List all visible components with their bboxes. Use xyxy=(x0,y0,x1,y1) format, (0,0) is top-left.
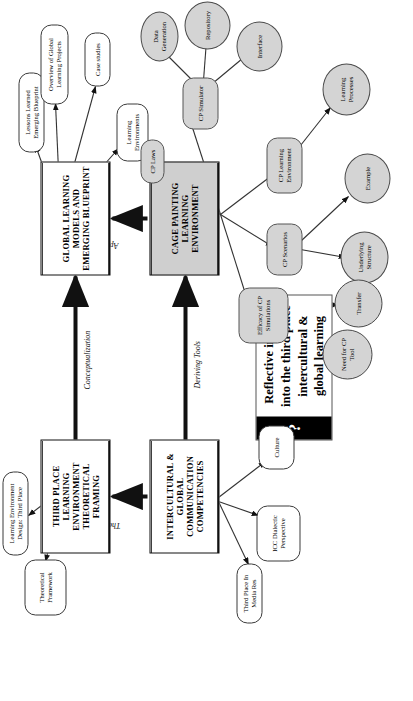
node-label: Lessons Learned Emerging Blueprint xyxy=(23,76,38,148)
node-need-for-cp-tool[interactable]: Need for CP Tool xyxy=(322,329,372,379)
process-box-label: GLOBAL LEARNING MODELS AND EMERGING BLUE… xyxy=(60,164,90,272)
node-label: Underlying Structure xyxy=(356,235,371,279)
node-underlying-structure[interactable]: Underlying Structure xyxy=(340,231,388,283)
edge-cple-cp-scenarios xyxy=(220,214,272,246)
node-label: Theoretical Framework xyxy=(37,563,52,611)
node-label: Case studies xyxy=(93,43,101,76)
process-box-global-learning-models-and-emerging-blueprint[interactable]: GLOBAL LEARNING MODELS AND EMERGING BLUE… xyxy=(40,161,110,275)
node-label: Learning Environment Design: Third Place xyxy=(7,475,22,551)
process-box-label: INTERCULTURAL & GLOBAL COMMUNICATION COM… xyxy=(164,442,205,550)
node-cp-laws[interactable]: CP Laws xyxy=(140,139,164,183)
node-label: Need for CP Tool xyxy=(339,333,354,375)
process-box-intercultural-global-communication-competencies[interactable]: INTERCULTURAL & GLOBAL COMMUNICATION COM… xyxy=(149,439,219,553)
node-overview-of-global-learning-projects[interactable]: Overview of Global Learning Projects xyxy=(40,24,68,104)
diagram-canvas: Theoretical Framing Conceptualization De… xyxy=(0,0,413,701)
node-label: CP Scenarios xyxy=(280,231,288,266)
node-icc-dialectic-perspective[interactable]: ICC Dialectic Perspective xyxy=(256,505,300,561)
process-box-third-place-learning-environment-theoretical-framing[interactable]: THIRD PLACE LEARNING ENVIRONMENT THEORET… xyxy=(40,439,110,553)
node-efficacy-of-cp-simulations[interactable]: Efficacy of CP Simulations xyxy=(238,287,288,343)
node-case-studies[interactable]: Case studies xyxy=(84,32,110,86)
node-third-place-in-media-res[interactable]: Third Place In Media Res xyxy=(236,563,262,623)
node-learning-environment-design-third-place[interactable]: Learning Environment Design: Third Place xyxy=(2,471,28,555)
node-label: CP Learning Environment xyxy=(276,141,291,189)
node-data-generation[interactable]: Data Generation xyxy=(140,11,178,61)
process-box-label: THIRD PLACE LEARNING ENVIRONMENT THEORET… xyxy=(50,442,101,550)
node-label: Learning Environments xyxy=(124,107,139,157)
node-label: Transfer xyxy=(354,292,362,314)
node-label: Interface xyxy=(255,34,263,57)
node-label: Culture xyxy=(272,437,280,457)
edge-icc-culture xyxy=(218,461,265,497)
node-label: Overview of Global Learning Projects xyxy=(46,28,61,100)
node-cp-simulator[interactable]: CP Simulator xyxy=(182,77,218,129)
node-culture[interactable]: Culture xyxy=(258,425,294,469)
node-transfer[interactable]: Transfer xyxy=(334,279,382,327)
node-repository[interactable]: Repository xyxy=(184,1,230,49)
edge-label-deriving-tools: Deriving Tools xyxy=(192,341,201,389)
edge-scenarios-example xyxy=(300,196,348,241)
node-label: Learning Processes xyxy=(338,67,353,111)
diagram-frame: Theoretical Framing Conceptualization De… xyxy=(0,0,413,701)
edge-label-conceptualization: Conceptualization xyxy=(82,330,91,389)
node-label: CP Simulator xyxy=(196,85,204,120)
node-label: Efficacy of CP Simulations xyxy=(255,291,270,339)
node-label: Repository xyxy=(203,11,211,40)
node-example[interactable]: Example xyxy=(344,153,390,203)
node-label: Third Place In Media Res xyxy=(241,567,256,619)
edge-scenarios-underlying-structure xyxy=(300,249,345,257)
node-label: Example xyxy=(363,166,371,189)
node-interface[interactable]: Interface xyxy=(236,21,282,71)
node-cp-learning-environment[interactable]: CP Learning Environment xyxy=(266,137,302,193)
node-theoretical-framework[interactable]: Theoretical Framework xyxy=(24,559,66,615)
edge-cple-learning-processes xyxy=(300,107,330,145)
node-label: ICC Dialectic Perspective xyxy=(270,509,285,557)
node-learning-processes[interactable]: Learning Processes xyxy=(322,63,370,115)
node-label: CP Laws xyxy=(148,149,156,173)
node-cp-scenarios[interactable]: CP Scenarios xyxy=(266,223,302,275)
process-box-label: CAGE PAINTING LEARNING ENVIRONMENT xyxy=(169,164,199,272)
node-label: Data Generation xyxy=(151,15,166,57)
